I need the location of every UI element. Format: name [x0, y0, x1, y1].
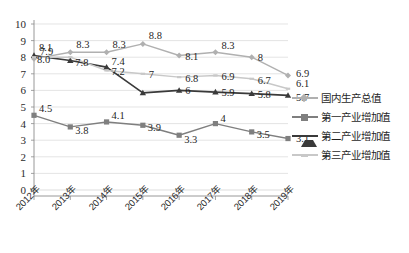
data-label-3-4: 6.8 — [185, 74, 198, 84]
data-label-0-5: 8.3 — [221, 41, 234, 51]
legend-item-0[interactable]: 国内生产总值 — [292, 88, 409, 107]
legend-item-1[interactable]: 第一产业增加值 — [292, 107, 409, 126]
chart-legend: 国内生产总值第一产业增加值第二产业增加值第三产业增加值 — [292, 88, 409, 164]
data-label-1-4: 3.3 — [184, 135, 197, 145]
marker-0-2 — [104, 49, 110, 55]
data-label-3-3: 7 — [149, 70, 154, 80]
marker-0-3 — [140, 41, 146, 47]
marker-1-1 — [68, 124, 73, 129]
marker-1-6 — [249, 129, 254, 134]
legend-label-2: 第二产业增加值 — [318, 128, 390, 143]
data-label-1-0: 4.5 — [39, 104, 52, 114]
legend-label-1: 第一产业增加值 — [318, 109, 390, 124]
chart-container: 012345678910 2012年2013年2014年2015年2016年20… — [0, 0, 409, 253]
data-label-1-5: 4 — [220, 114, 225, 124]
legend-marker-icon-0 — [292, 93, 318, 103]
data-label-3-0: 8.0 — [37, 55, 50, 65]
marker-3-6 — [250, 78, 254, 80]
marker-1-3 — [140, 123, 145, 128]
data-label-0-6: 8 — [258, 53, 263, 63]
data-label-0-4: 8.1 — [185, 52, 198, 62]
gridlines — [34, 24, 288, 190]
data-label-3-2: 7.2 — [112, 67, 125, 77]
marker-3-7 — [286, 88, 290, 90]
marker-0-1 — [67, 49, 73, 55]
y-tick-1: 1 — [4, 168, 26, 178]
data-label-3-5: 6.9 — [221, 72, 234, 82]
marker-1-5 — [213, 121, 218, 126]
marker-1-4 — [177, 133, 182, 138]
data-label-2-5: 5.9 — [221, 88, 234, 98]
y-tick-8: 8 — [4, 52, 26, 62]
marker-3-1 — [68, 56, 72, 58]
y-tick-9: 9 — [4, 36, 26, 46]
data-label-0-1: 8.3 — [76, 40, 89, 50]
data-label-0-3: 8.8 — [149, 31, 162, 41]
marker-3-5 — [213, 74, 217, 76]
legend-marker-icon-1 — [292, 112, 318, 122]
legend-item-2[interactable]: 第二产业增加值 — [292, 126, 409, 145]
legend-item-3[interactable]: 第三产业增加值 — [292, 145, 409, 164]
marker-3-0 — [32, 56, 36, 58]
data-label-2-4: 6 — [185, 86, 190, 96]
marker-0-7 — [285, 72, 291, 78]
marker-1-7 — [285, 136, 290, 141]
legend-label-0: 国内生产总值 — [318, 90, 380, 105]
marker-1-2 — [104, 119, 109, 124]
data-label-3-6: 6.7 — [258, 76, 271, 86]
y-tick-2: 2 — [4, 152, 26, 162]
y-tick-5: 5 — [4, 102, 26, 112]
data-label-1-6: 3.5 — [257, 130, 270, 140]
data-label-2-6: 5.8 — [258, 90, 271, 100]
y-tick-4: 4 — [4, 119, 26, 129]
marker-0-6 — [249, 54, 255, 60]
axis-lines — [31, 20, 288, 200]
marker-0-4 — [176, 53, 182, 59]
legend-marker-icon-2 — [292, 131, 318, 141]
legend-marker-icon-3 — [292, 150, 318, 160]
data-label-1-3: 3.9 — [148, 123, 161, 133]
legend-label-3: 第三产业增加值 — [318, 147, 390, 162]
marker-3-4 — [177, 76, 181, 78]
marker-3-3 — [141, 73, 145, 75]
y-tick-3: 3 — [4, 135, 26, 145]
data-label-2-1: 7.8 — [75, 58, 88, 68]
data-label-1-1: 3.8 — [75, 126, 88, 136]
figure-caption — [0, 245, 409, 253]
data-label-2-0: 8.1 — [39, 43, 52, 53]
y-tick-6: 6 — [4, 85, 26, 95]
data-label-1-2: 4.1 — [112, 111, 125, 121]
series-line-0 — [34, 44, 288, 76]
data-label-0-2: 8.3 — [113, 40, 126, 50]
marker-1-0 — [31, 113, 36, 118]
y-tick-10: 10 — [4, 19, 26, 29]
marker-3-2 — [104, 69, 108, 71]
y-tick-7: 7 — [4, 69, 26, 79]
marker-0-5 — [212, 49, 218, 55]
